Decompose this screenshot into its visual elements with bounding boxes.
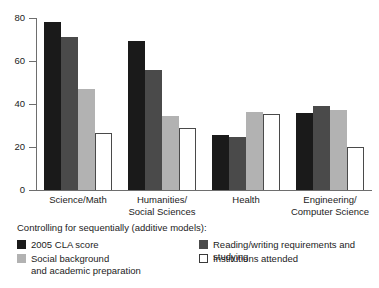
legend-items: 2005 CLA scoreSocial background and acad… (17, 239, 369, 281)
y-tick-label: 40 (3, 99, 25, 109)
bar (44, 22, 61, 190)
y-tick-mark (29, 18, 37, 19)
bar-group (44, 18, 112, 190)
bar-group (296, 18, 364, 190)
bar (246, 112, 263, 190)
bar (296, 113, 313, 190)
bar (95, 133, 112, 190)
bar (212, 135, 229, 190)
dark-gray-swatch (199, 240, 208, 249)
y-tick-mark (29, 147, 37, 148)
bar (263, 114, 280, 190)
y-tick-label: 80 (3, 13, 25, 23)
legend-label: Social background and academic preparati… (31, 253, 141, 276)
bar-chart-figure: 020406080 Science/MathHumanities/ Social… (0, 0, 379, 288)
bar (330, 110, 347, 190)
bar (162, 116, 179, 190)
light-gray-swatch (17, 254, 26, 263)
bar-group (128, 18, 196, 190)
bar (78, 89, 95, 190)
legend-label: Institutions attended (213, 253, 298, 265)
legend-title: Controlling for sequentially (additive m… (17, 222, 369, 234)
bar (313, 106, 330, 190)
y-tick-mark (29, 190, 37, 191)
y-tick-mark (29, 104, 37, 105)
y-tick-label: 60 (3, 56, 25, 66)
bar-group (212, 18, 280, 190)
bar (128, 41, 145, 190)
y-tick-label: 20 (3, 142, 25, 152)
x-axis-line (36, 190, 372, 191)
legend-item: 2005 CLA score (17, 239, 99, 251)
bar (229, 137, 246, 190)
bar (179, 128, 196, 190)
legend-item: Institutions attended (199, 253, 298, 265)
y-tick-label: 0 (3, 185, 25, 195)
plot-area: 020406080 Science/MathHumanities/ Social… (0, 0, 379, 220)
category-label: Engineering/ Computer Science (276, 194, 379, 217)
bar (61, 37, 78, 190)
bar (347, 147, 364, 190)
bar (145, 70, 162, 190)
legend-item: Social background and academic preparati… (17, 253, 141, 276)
y-tick-mark (29, 61, 37, 62)
black-swatch (17, 240, 26, 249)
legend-label: 2005 CLA score (31, 239, 99, 251)
white-swatch (199, 254, 208, 263)
chart-legend: Controlling for sequentially (additive m… (17, 222, 369, 281)
